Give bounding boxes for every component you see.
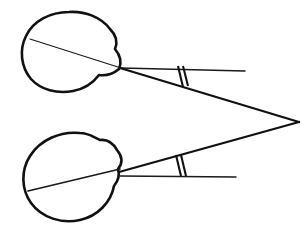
lower-eye-angle-marker	[176, 155, 186, 176]
lower-eye-group	[23, 122, 299, 221]
convergence-diagram	[0, 0, 301, 232]
upper-eye-group	[22, 12, 299, 122]
lower-angle-tick-2	[181, 155, 186, 176]
lower-eye-optic-axis-ray	[120, 176, 236, 177]
upper-eye-visual-axis	[30, 39, 121, 68]
lower-angle-tick-1	[176, 155, 181, 176]
lower-eye-visual-axis	[28, 169, 120, 191]
diagram-canvas	[0, 0, 301, 232]
lower-eye-sight-ray	[119, 122, 299, 172]
upper-eye-sight-ray	[120, 68, 299, 122]
lower-eye-outline	[23, 133, 121, 221]
